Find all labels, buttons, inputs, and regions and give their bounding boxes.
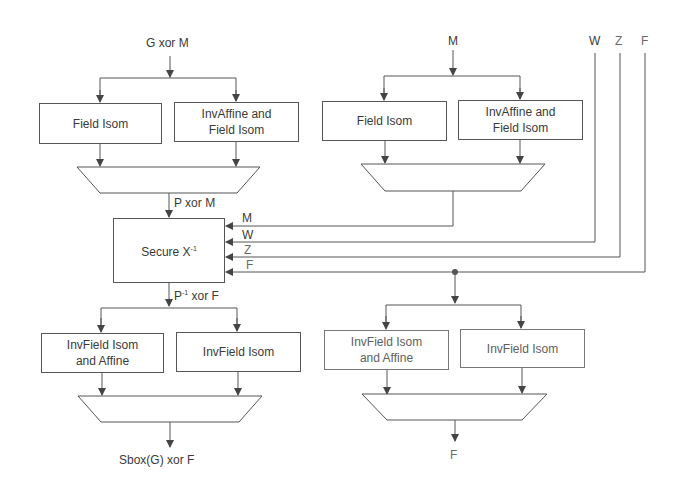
box-label: Field Isom: [357, 113, 412, 129]
junction-dot: [452, 269, 458, 275]
inverter-input-f: F: [246, 258, 253, 272]
box-label-line2: Field Isom: [493, 120, 548, 136]
inverter-input-m: M: [242, 211, 252, 225]
left-invfield-isom-affine-box: InvField Isom and Affine: [41, 333, 164, 373]
mux-output-label: P xor M: [174, 196, 215, 210]
left-input-label: G xor M: [146, 36, 189, 50]
box-label: InvField Isom: [487, 341, 558, 357]
box-label: InvField Isom: [203, 344, 274, 360]
mask-input-z: Z: [615, 34, 622, 48]
secure-inverter-box: Secure X-1: [113, 218, 225, 283]
box-label: Field Isom: [73, 116, 128, 132]
mask-input-f: F: [641, 34, 648, 48]
right-invaffine-field-isom-box: InvAffine and Field Isom: [458, 100, 583, 140]
inverter-input-w: W: [242, 228, 253, 242]
box-label-line1: InvField Isom: [67, 337, 138, 353]
left-invaffine-field-isom-box: InvAffine and Field Isom: [174, 102, 299, 142]
right-input-label: M: [448, 34, 458, 48]
box-label-line1: InvAffine and: [486, 104, 556, 120]
right-output-label: F: [450, 448, 457, 462]
diagram-wires: [0, 0, 681, 497]
box-label-line2: and Affine: [76, 353, 129, 369]
right-invfield-isom-affine-box: InvField Isom and Affine: [324, 330, 449, 370]
box-label-line2: Field Isom: [209, 122, 264, 138]
inverter-output-label: P-1 xor F: [174, 286, 219, 303]
box-label-line2: and Affine: [360, 350, 413, 366]
right-invfield-isom-box: InvField Isom: [460, 329, 585, 368]
secure-inverter-label: Secure X-1: [141, 241, 197, 260]
inverter-input-z: Z: [244, 243, 251, 257]
box-label-line1: InvAffine and: [202, 106, 272, 122]
right-field-isom-box: Field Isom: [322, 101, 447, 141]
mask-input-w: W: [589, 34, 600, 48]
left-invfield-isom-box: InvField Isom: [176, 332, 301, 372]
box-label-line1: InvField Isom: [351, 334, 422, 350]
left-field-isom-box: Field Isom: [39, 103, 162, 144]
left-output-label: Sbox(G) xor F: [119, 453, 194, 467]
